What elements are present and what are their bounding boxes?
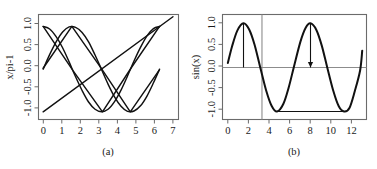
panel-b-xtick-1: 2 — [246, 125, 251, 136]
panel-a-x-ticklabels: 0 1 2 3 4 5 6 7 — [41, 125, 176, 136]
panel-b-ytick-0: 1.0 — [206, 16, 217, 29]
panel-b-xtick-2: 4 — [266, 125, 272, 136]
panel-a-xtick-5: 5 — [133, 125, 138, 136]
panel-a-x-tickmarks — [43, 120, 173, 124]
panel-a-xtick-0: 0 — [41, 125, 46, 136]
panel-b-xtick-0: 0 — [225, 125, 230, 136]
panel-a-xtick-4: 4 — [115, 125, 121, 136]
panel-b-xtick-4: 8 — [308, 125, 313, 136]
panel-a-ytick-4: -1.0 — [22, 100, 33, 117]
panel-b-xtick-6: 12 — [346, 125, 357, 136]
panel-a-ytick-3: -0.5 — [22, 78, 33, 95]
panel-b-ylabel: sin(x) — [190, 54, 202, 79]
panel-b-x-ticklabels: 0 2 4 6 8 10 12 — [225, 125, 356, 136]
panel-a-ytick-2: 0.0 — [22, 59, 33, 72]
panel-b-xtick-3: 6 — [287, 125, 292, 136]
peak-drop-arrow-2-head — [308, 62, 313, 68]
panel-b-x-tickmarks — [228, 120, 352, 124]
panel-b-y-tickmarks — [219, 23, 223, 109]
panel-a-caption: (a) — [102, 146, 114, 158]
panel-b-ytick-3: -0.5 — [206, 79, 217, 96]
panel-a-xtick-3: 3 — [96, 125, 101, 136]
panel-b-ytick-2: 0.0 — [206, 59, 217, 72]
panel-b-caption: (b) — [288, 146, 301, 158]
panel-b-y-ticklabels: 1.0 0.5 0.0 -0.5 -1.0 — [206, 16, 217, 117]
panel-a-xtick-6: 6 — [152, 125, 157, 136]
panel-a-xtick-2: 2 — [78, 125, 83, 136]
panel-a-y-ticklabels: 1.0 0.5 0.0 -0.5 -1.0 — [22, 17, 33, 116]
panel-a-ylabel: x/pi-1 — [4, 54, 15, 79]
panel-a-data-curves — [43, 17, 173, 112]
panel-b-svg: 1.0 0.5 0.0 -0.5 -1.0 sin(x) 0 — [190, 0, 377, 169]
panel-b-xtick-5: 10 — [326, 125, 337, 136]
panel-a-svg: 1.0 0.5 0.0 -0.5 -1.0 x/pi-1 0 — [0, 0, 190, 169]
panel-a-xtick-7: 7 — [170, 125, 175, 136]
panel-a-ytick-1: 0.5 — [22, 38, 33, 51]
panel-b-ytick-4: -1.0 — [206, 101, 217, 118]
panel-b-ytick-1: 0.5 — [206, 38, 217, 51]
figure-container: 1.0 0.5 0.0 -0.5 -1.0 x/pi-1 0 — [0, 0, 377, 169]
panel-a: 1.0 0.5 0.0 -0.5 -1.0 x/pi-1 0 — [0, 0, 190, 169]
panel-a-y-tickmarks — [35, 24, 39, 108]
panel-a-ytick-0: 1.0 — [22, 17, 33, 30]
panel-a-xtick-1: 1 — [59, 125, 64, 136]
panel-b: 1.0 0.5 0.0 -0.5 -1.0 sin(x) 0 — [190, 0, 377, 169]
